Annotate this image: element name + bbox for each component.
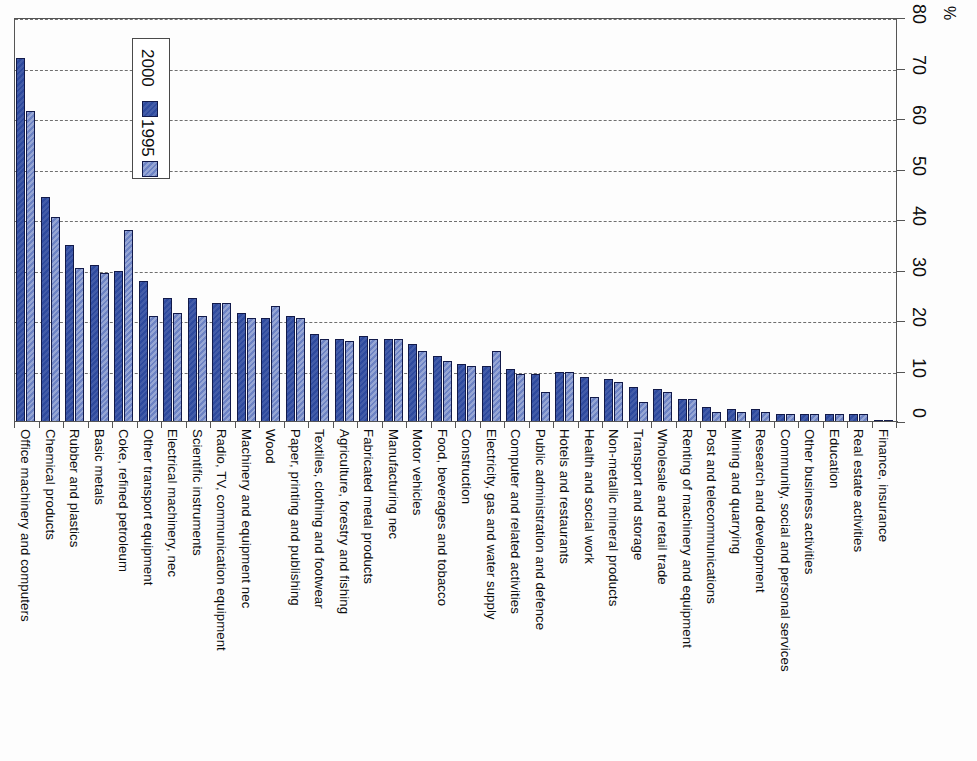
bar-2000 xyxy=(653,389,662,422)
value-axis: % 01020304050607080 xyxy=(896,0,977,440)
value-tick-70 xyxy=(896,69,905,70)
bar-2000 xyxy=(384,339,393,422)
bar-2000 xyxy=(678,399,687,422)
category-label: Research and development xyxy=(753,429,768,593)
category-label: Food, beverages and tobacco xyxy=(435,429,450,606)
value-tick-label: 10 xyxy=(908,358,929,378)
value-tick-label: 70 xyxy=(908,55,929,75)
bar-1995 xyxy=(394,339,403,422)
bar-group xyxy=(408,19,433,422)
bar-2000 xyxy=(408,344,417,422)
value-tick-20 xyxy=(896,321,905,322)
bar-2000 xyxy=(506,369,515,422)
bar-2000 xyxy=(65,245,74,422)
category-axis-labels: Office machinery and computersChemical p… xyxy=(0,425,977,761)
bar-2000 xyxy=(482,366,491,422)
bar-group xyxy=(433,19,458,422)
bar-2000 xyxy=(212,303,221,422)
bar-1995 xyxy=(173,313,182,422)
bar-group xyxy=(825,19,850,422)
value-tick-label: 20 xyxy=(908,307,929,327)
bar-group xyxy=(16,19,41,422)
bar-group xyxy=(874,19,899,422)
bar-group xyxy=(776,19,801,422)
bar-1995 xyxy=(639,402,648,422)
category-label: Health and social work xyxy=(582,429,597,564)
bar-2000 xyxy=(163,298,172,422)
bar-2000 xyxy=(237,313,246,422)
category-label: Education xyxy=(827,429,842,489)
bar-group xyxy=(531,19,556,422)
bar-group xyxy=(653,19,678,422)
category-label: Electricity, gas and water supply xyxy=(484,429,499,620)
bar-1995 xyxy=(467,366,476,422)
value-tick-label: 80 xyxy=(908,4,929,24)
category-label: Mining and quarrying xyxy=(729,429,744,554)
bar-1995 xyxy=(565,372,574,423)
value-tick-0 xyxy=(896,422,905,423)
category-label: Other transport equipment xyxy=(141,429,156,585)
bar-1995 xyxy=(222,303,231,422)
bar-group xyxy=(212,19,237,422)
chart-legend: 2000 1995 xyxy=(132,38,170,179)
bar-group xyxy=(727,19,752,422)
category-label: Chemical products xyxy=(43,429,58,540)
category-label: Manufacturing nec xyxy=(386,429,401,539)
value-tick-40 xyxy=(896,220,905,221)
value-tick-label: 0 xyxy=(908,408,929,418)
category-label: Renting of machinery and equipment xyxy=(680,429,695,648)
bar-group xyxy=(41,19,66,422)
bar-1995 xyxy=(688,399,697,422)
category-label: Public administration and defence xyxy=(533,429,548,630)
bar-group xyxy=(800,19,825,422)
category-label: Other business activities xyxy=(802,429,817,574)
bar-group xyxy=(506,19,531,422)
bar-1995 xyxy=(247,318,256,422)
category-axis-line xyxy=(14,421,898,422)
bar-group xyxy=(849,19,874,422)
bar-group xyxy=(457,19,482,422)
value-tick-10 xyxy=(896,372,905,373)
bar-group xyxy=(604,19,629,422)
bar-1995 xyxy=(149,316,158,422)
bar-group xyxy=(188,19,213,422)
category-label: Electrical machinery, nec xyxy=(165,429,180,577)
bar-1995 xyxy=(590,397,599,422)
category-label: Construction xyxy=(459,429,474,504)
value-tick-80 xyxy=(896,18,905,19)
value-tick-label: 50 xyxy=(908,156,929,176)
bar-2000 xyxy=(16,58,25,422)
category-label: Scientific instruments xyxy=(190,429,205,556)
bar-2000 xyxy=(629,387,638,422)
bar-2000 xyxy=(580,377,589,422)
category-label: Basic metals xyxy=(92,429,107,505)
bar-group xyxy=(555,19,580,422)
bar-1995 xyxy=(369,339,378,422)
bar-1995 xyxy=(75,268,84,422)
bar-2000 xyxy=(702,407,711,422)
bar-group xyxy=(482,19,507,422)
bar-1995 xyxy=(663,392,672,422)
bar-group xyxy=(678,19,703,422)
bar-group xyxy=(629,19,654,422)
category-label: Rubber and plastics xyxy=(67,429,82,547)
bar-1995 xyxy=(26,111,35,422)
value-tick-label: 60 xyxy=(908,105,929,125)
value-tick-label: 30 xyxy=(908,257,929,277)
category-label: Hotels and restaurants xyxy=(557,429,572,564)
category-label: Community, social and personal services xyxy=(778,429,793,672)
bar-2000 xyxy=(261,318,270,422)
category-label: Office machinery and computers xyxy=(18,429,33,622)
bar-2000 xyxy=(335,339,344,422)
bar-2000 xyxy=(139,281,148,422)
bar-2000 xyxy=(457,364,466,422)
bar-group xyxy=(359,19,384,422)
category-label: Fabricated metal products xyxy=(361,429,376,584)
category-label: Paper, printing and publishing xyxy=(288,429,303,606)
bar-2000 xyxy=(433,356,442,422)
legend-label-1995: 1995 xyxy=(137,119,157,157)
bar-group xyxy=(751,19,776,422)
bar-2000 xyxy=(310,334,319,422)
bar-1995 xyxy=(418,351,427,422)
category-label: Finance, insurance xyxy=(876,429,891,542)
